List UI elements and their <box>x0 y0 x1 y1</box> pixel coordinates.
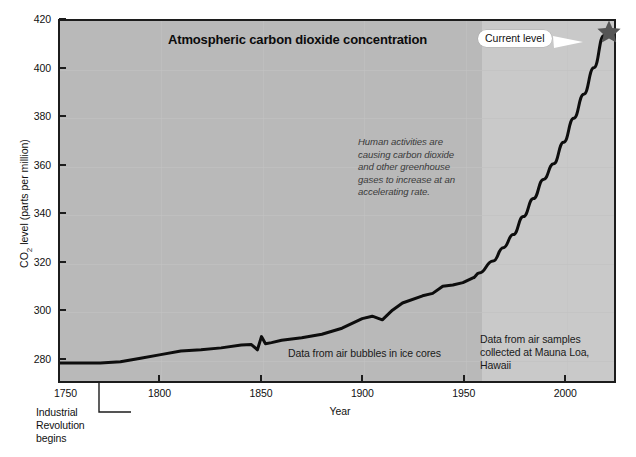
plot-area <box>58 19 616 383</box>
y-axis-title-suffix: level (parts per million) <box>18 139 30 248</box>
y-tick-mark <box>59 212 66 214</box>
x-tick-label: 1750 <box>54 387 94 399</box>
y-tick-label: 420 <box>17 13 51 25</box>
y-axis-title-subscript: 2 <box>25 248 34 252</box>
x-tick-label: 1950 <box>444 387 484 399</box>
y-tick-label: 400 <box>17 62 51 74</box>
co2-curve <box>60 21 614 381</box>
y-tick-mark <box>59 115 66 117</box>
callout-pointer <box>553 33 585 51</box>
industrial-revolution-note: Industrial Revolution begins <box>36 406 85 445</box>
x-tick-label: 1900 <box>342 387 382 399</box>
y-tick-mark <box>59 309 66 311</box>
x-tick-mark <box>260 375 262 382</box>
mauna-loa-source-note: Data from air samples collected at Mauna… <box>480 333 600 372</box>
industrial-note-line-3: begins <box>36 432 85 445</box>
x-tick-mark <box>158 375 160 382</box>
y-tick-label: 280 <box>17 353 51 365</box>
y-tick-mark <box>59 358 66 360</box>
current-level-callout: Current level <box>478 30 552 47</box>
industrial-revolution-leader-line <box>98 383 132 419</box>
y-tick-mark <box>59 261 66 263</box>
industrial-note-line-2: Revolution <box>36 419 85 432</box>
chart-canvas: 280300320340360380400420 CO2 level (part… <box>0 0 636 457</box>
x-axis-title: Year <box>280 405 400 417</box>
x-tick-mark <box>463 375 465 382</box>
chart-title: Atmospheric carbon dioxide concentration <box>168 32 427 47</box>
y-tick-label: 300 <box>17 304 51 316</box>
y-axis-title-prefix: CO <box>18 252 30 268</box>
current-level-star-icon <box>596 19 622 45</box>
x-tick-mark <box>361 375 363 382</box>
x-tick-label: 2000 <box>545 387 585 399</box>
x-tick-label: 1800 <box>139 387 179 399</box>
ice-core-source-note: Data from air bubbles in ice cores <box>288 347 441 359</box>
x-tick-mark <box>564 375 566 382</box>
human-activities-note: Human activities are causing carbon diox… <box>358 136 468 199</box>
y-tick-mark <box>59 67 66 69</box>
y-tick-mark <box>59 164 66 166</box>
industrial-note-line-1: Industrial <box>36 406 85 419</box>
y-axis-title: CO2 level (parts per million) <box>18 114 33 294</box>
x-tick-label: 1850 <box>241 387 281 399</box>
y-tick-mark <box>59 18 66 20</box>
